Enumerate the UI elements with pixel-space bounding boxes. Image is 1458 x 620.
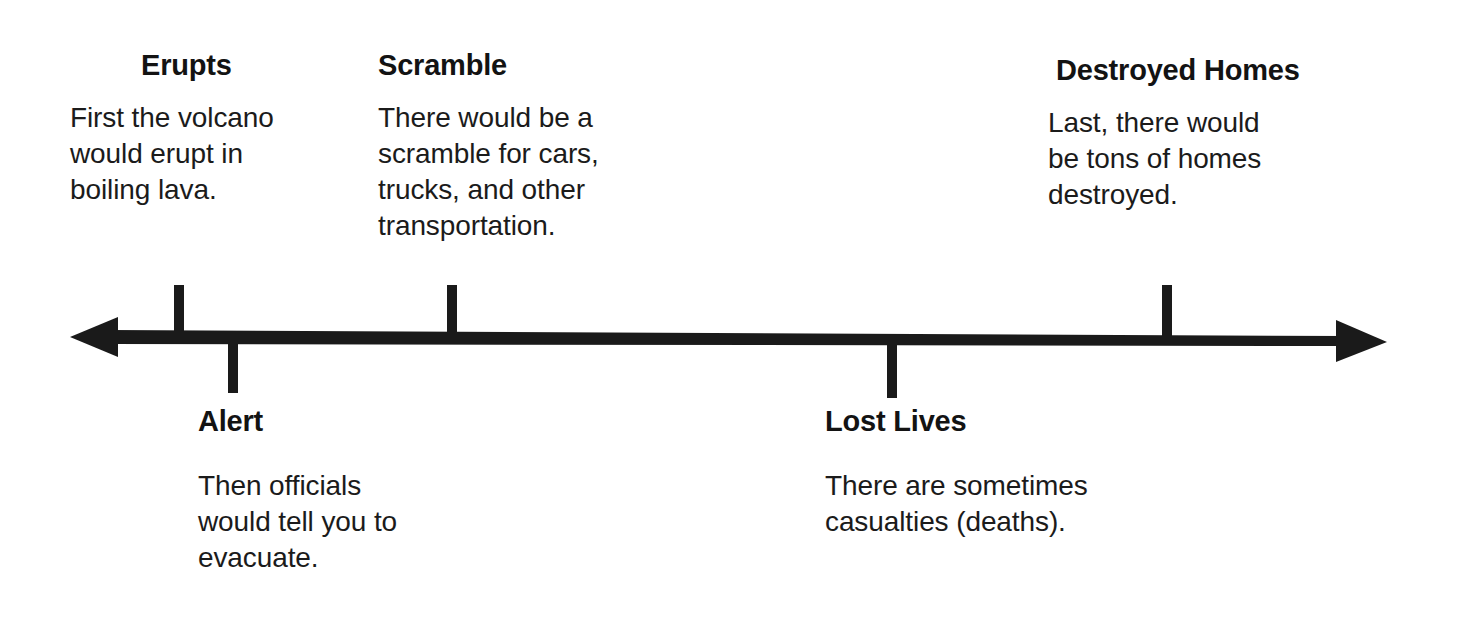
event-scramble-body-line: There would be a	[378, 100, 599, 136]
event-lost-lives-body-line: There are sometimes	[825, 468, 1088, 504]
event-alert-body-line: Then officials	[198, 468, 397, 504]
left-arrowhead-icon	[70, 317, 118, 357]
event-scramble-body-line: transportation.	[378, 208, 599, 244]
event-destroyed-homes: Destroyed Homes Last, there would be ton…	[1048, 53, 1300, 213]
event-alert: Alert Then officials would tell you to e…	[198, 404, 397, 576]
tick-erupts	[174, 285, 184, 338]
event-lost-lives-body: There are sometimes casualties (deaths).	[825, 468, 1088, 540]
event-scramble-heading: Scramble	[378, 48, 599, 82]
tick-scramble	[447, 285, 457, 339]
tick-destroyed-homes	[1162, 285, 1172, 343]
event-lost-lives: Lost Lives There are sometimes casualtie…	[825, 404, 1088, 540]
event-destroyed-homes-body-line: be tons of homes	[1048, 141, 1300, 177]
event-destroyed-homes-body-line: destroyed.	[1048, 177, 1300, 213]
event-erupts-body: First the volcano would erupt in boiling…	[70, 100, 274, 208]
event-destroyed-homes-heading: Destroyed Homes	[1056, 53, 1300, 87]
event-scramble: Scramble There would be a scramble for c…	[378, 48, 599, 244]
timeline-shaft	[110, 330, 1345, 346]
event-alert-body-line: evacuate.	[198, 540, 397, 576]
timeline-diagram: Erupts First the volcano would erupt in …	[0, 0, 1458, 620]
event-erupts-body-line: would erupt in	[70, 136, 274, 172]
tick-lost-lives	[887, 341, 897, 398]
event-scramble-body: There would be a scramble for cars, truc…	[378, 100, 599, 244]
event-destroyed-homes-body-line: Last, there would	[1048, 105, 1300, 141]
event-alert-body-line: would tell you to	[198, 504, 397, 540]
event-lost-lives-heading: Lost Lives	[825, 404, 1088, 438]
event-alert-heading: Alert	[198, 404, 397, 438]
event-erupts-body-line: First the volcano	[70, 100, 274, 136]
event-erupts: Erupts First the volcano would erupt in …	[70, 48, 274, 208]
event-lost-lives-body-line: casualties (deaths).	[825, 504, 1088, 540]
event-alert-body: Then officials would tell you to evacuat…	[198, 468, 397, 576]
tick-alert	[228, 338, 238, 393]
event-erupts-body-line: boiling lava.	[70, 172, 274, 208]
event-erupts-heading: Erupts	[141, 48, 274, 82]
event-destroyed-homes-body: Last, there would be tons of homes destr…	[1048, 105, 1300, 213]
event-scramble-body-line: scramble for cars,	[378, 136, 599, 172]
event-scramble-body-line: trucks, and other	[378, 172, 599, 208]
right-arrowhead-icon	[1336, 320, 1387, 362]
